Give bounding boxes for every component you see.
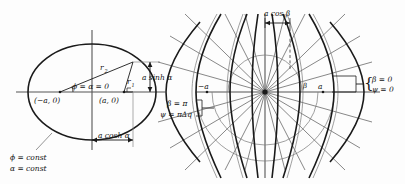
right-panel-centre-node bbox=[262, 89, 267, 94]
psi-pi-dq-label: ψ = πΔq bbox=[160, 110, 192, 119]
figure-canvas: a sinh α a cosh α r 2 r 1 ϕ = α = 0 (−a,… bbox=[0, 0, 405, 184]
beta-pi-label: β = π bbox=[166, 99, 188, 108]
phi-alpha-zero-label: ϕ = α = 0 bbox=[72, 82, 109, 91]
a-cos-beta-label: a cos β bbox=[264, 9, 291, 18]
right-panel-left-focus bbox=[206, 91, 209, 94]
alpha-const-label: α = const bbox=[10, 164, 48, 173]
right-focus-label: (a, 0) bbox=[99, 96, 119, 105]
right-panel-right-focus bbox=[322, 91, 325, 94]
a-cosh-alpha-label: a cosh α bbox=[98, 131, 130, 140]
elliptic-coordinates-figure: a sinh α a cosh α r 2 r 1 ϕ = α = 0 (−a,… bbox=[0, 0, 405, 184]
r2-label: r bbox=[100, 63, 104, 72]
r1-subscript: 1 bbox=[132, 82, 135, 88]
right-panel-minus-a-label: −a bbox=[198, 82, 209, 91]
phi-const-label: ϕ = const bbox=[10, 153, 48, 162]
beta-angle-label: β bbox=[302, 82, 307, 90]
brace-psi-zero-label: ψ = 0 bbox=[372, 85, 394, 94]
brace-beta-zero-label: β = 0 bbox=[371, 75, 392, 84]
left-focus-label: (−a, 0) bbox=[34, 96, 60, 105]
r2-subscript: 2 bbox=[104, 68, 108, 74]
r1-label: r bbox=[127, 77, 131, 86]
right-panel-a-label: a bbox=[318, 82, 322, 91]
